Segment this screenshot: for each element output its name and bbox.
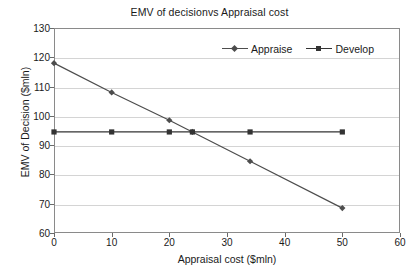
x-axis-tick-mark bbox=[285, 233, 286, 237]
x-axis-tick-label: 30 bbox=[207, 237, 247, 248]
data-point-develop bbox=[51, 129, 56, 134]
x-axis-tick-label: 40 bbox=[265, 237, 305, 248]
legend-label: Appraise bbox=[251, 43, 292, 55]
data-point-develop bbox=[247, 129, 252, 134]
data-point-appraise bbox=[109, 89, 115, 95]
data-point-appraise bbox=[166, 117, 172, 123]
x-axis-title: Appraisal cost ($mln) bbox=[54, 253, 400, 265]
x-axis-tick-label: 50 bbox=[322, 237, 362, 248]
series-line-appraise bbox=[54, 63, 342, 208]
x-axis-tick-label: 20 bbox=[149, 237, 189, 248]
chart-container: EMV of decisionvs Appraisal cost 6070809… bbox=[0, 0, 419, 279]
data-point-develop bbox=[109, 129, 114, 134]
x-axis-tick-label: 10 bbox=[92, 237, 132, 248]
legend-swatch-develop-icon bbox=[306, 44, 332, 54]
data-point-appraise bbox=[247, 158, 253, 164]
data-point-develop bbox=[167, 129, 172, 134]
series-layer bbox=[54, 28, 400, 233]
x-axis-tick-mark bbox=[112, 233, 113, 237]
x-axis-tick-mark bbox=[342, 233, 343, 237]
data-point-develop bbox=[340, 129, 345, 134]
legend-item-develop[interactable]: Develop bbox=[306, 43, 374, 55]
legend-label: Develop bbox=[335, 43, 374, 55]
x-axis-tick-label: 0 bbox=[34, 237, 74, 248]
x-axis-tick-mark bbox=[227, 233, 228, 237]
x-axis-tick-mark bbox=[169, 233, 170, 237]
chart-legend: AppraiseDevelop bbox=[222, 43, 374, 55]
y-axis-title: EMV of Decision ($mln) bbox=[19, 17, 31, 227]
data-point-appraise bbox=[339, 205, 345, 211]
x-axis-tick-mark bbox=[54, 233, 55, 237]
legend-item-appraise[interactable]: Appraise bbox=[222, 43, 292, 55]
x-axis-tick-mark bbox=[400, 233, 401, 237]
data-point-develop bbox=[190, 129, 195, 134]
x-axis-tick-label: 60 bbox=[380, 237, 419, 248]
legend-swatch-appraise-icon bbox=[222, 44, 248, 54]
